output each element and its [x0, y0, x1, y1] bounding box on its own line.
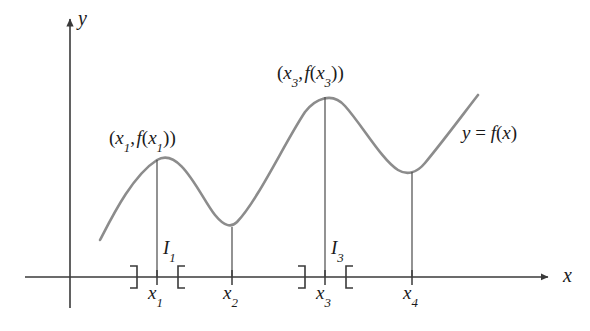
x-axis-label-text: x: [563, 264, 572, 286]
point-annotation-x1: (x1, f(x1)): [109, 128, 176, 152]
drop-lines-group: [157, 97, 412, 277]
interval-label-i3: I3: [331, 238, 344, 262]
tick-label-x1: x1: [148, 283, 163, 307]
tick-label-x4: x4: [403, 283, 418, 307]
function-graph-figure: y x (x1, f(x1)) (x3, f(x3)) y = f(x) I1 …: [0, 0, 590, 331]
x-axis-label: x: [563, 265, 572, 285]
tick-label-x2: x2: [223, 283, 238, 307]
y-axis-label: y: [78, 8, 87, 28]
point-annotation-x3: (x3, f(x3)): [277, 63, 344, 87]
tick-label-x3: x3: [316, 283, 331, 307]
function-equation-label: y = f(x): [462, 123, 517, 142]
y-axis-label-text: y: [78, 7, 87, 29]
interval-label-i1: I1: [163, 238, 176, 262]
graph-canvas: [0, 0, 590, 331]
